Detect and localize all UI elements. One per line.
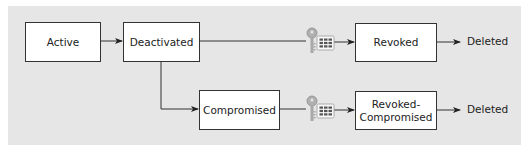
state-revoked-compromised-label-line2: Compromised bbox=[360, 111, 433, 124]
certificate-icon bbox=[317, 104, 334, 118]
state-revoked: Revoked bbox=[355, 23, 437, 62]
key-certificate-icon bbox=[304, 27, 336, 55]
certificate-icon bbox=[317, 36, 334, 50]
key-icon bbox=[307, 96, 317, 121]
state-deleted-bottom: Deleted bbox=[467, 103, 508, 116]
state-compromised: Compromised bbox=[199, 90, 280, 130]
state-deactivated-label: Deactivated bbox=[130, 36, 194, 49]
arrow-deactivated-to-compromised bbox=[161, 61, 198, 109]
state-active: Active bbox=[25, 22, 101, 62]
state-compromised-label: Compromised bbox=[203, 104, 276, 117]
state-deactivated: Deactivated bbox=[123, 22, 200, 62]
state-revoked-compromised-label-line1: Revoked- bbox=[372, 98, 421, 111]
state-revoked-label: Revoked bbox=[374, 36, 419, 49]
state-deleted-top: Deleted bbox=[467, 35, 508, 48]
key-certificate-icon bbox=[304, 95, 336, 123]
state-active-label: Active bbox=[47, 36, 79, 49]
key-icon bbox=[307, 28, 317, 53]
state-revoked-compromised: Revoked- Compromised bbox=[355, 91, 437, 130]
